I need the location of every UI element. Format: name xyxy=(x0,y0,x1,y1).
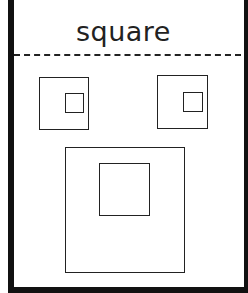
dashed-divider xyxy=(14,54,241,56)
small-square-right-inner-square xyxy=(183,92,203,112)
small-square-left-inner-square xyxy=(65,93,84,113)
large-square-bottom-inner-square xyxy=(99,163,150,216)
worksheet-title: square xyxy=(0,16,247,47)
